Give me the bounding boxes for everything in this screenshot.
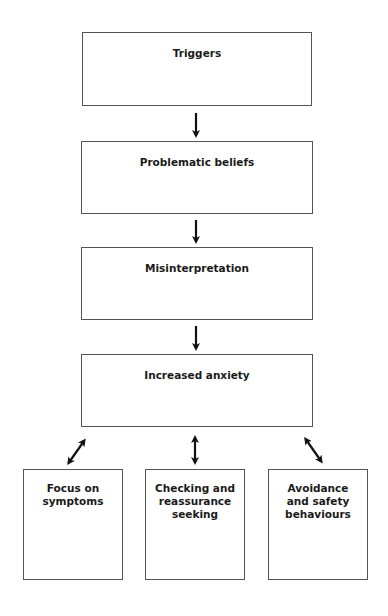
- double-arrow-diagonal-icon: [70, 441, 84, 461]
- double-arrow-diagonal-icon: [307, 441, 321, 461]
- arrows-layer: [0, 0, 388, 616]
